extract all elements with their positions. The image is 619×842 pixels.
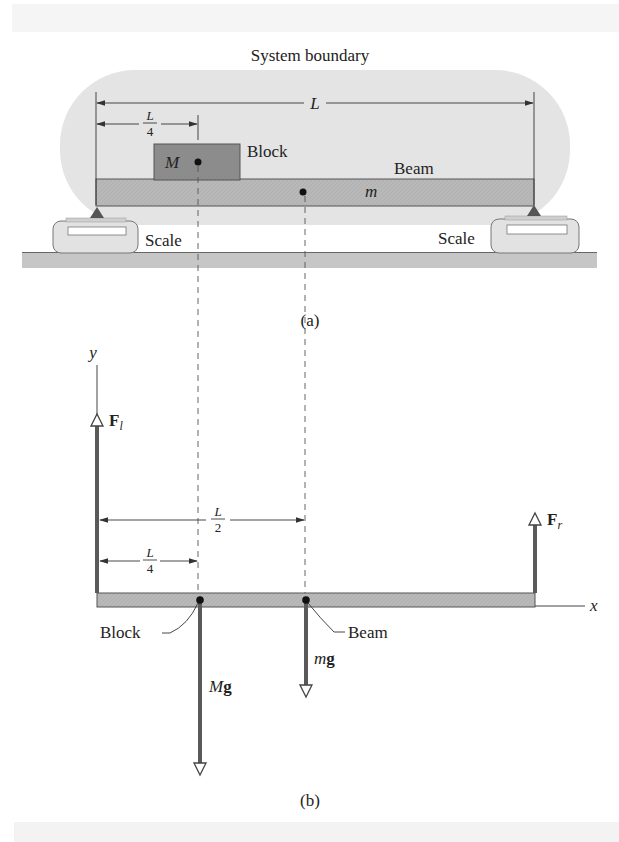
svg-text:L: L xyxy=(145,108,153,123)
dim-half-fraction: L 2 xyxy=(211,504,225,535)
dim-L-label: L xyxy=(309,94,319,113)
ground xyxy=(22,253,597,268)
block-mass-symbol: M xyxy=(164,153,180,172)
beam-weight-arrowhead-icon xyxy=(300,685,312,697)
left-scale-label: Scale xyxy=(145,231,182,250)
block-center-of-mass xyxy=(195,159,202,166)
block-label: Block xyxy=(247,142,288,161)
caption-b: (b) xyxy=(300,791,320,810)
beam-label: Beam xyxy=(394,159,434,178)
caption-a: (a) xyxy=(301,311,320,330)
beam-mass-symbol: m xyxy=(365,182,377,201)
dim-quarter-fraction-b: L 4 xyxy=(143,545,157,576)
force-left-label: Fl xyxy=(109,411,123,433)
x-axis-label: x xyxy=(589,596,598,615)
diagram-canvas: System boundary Scale Scale m Beam M xyxy=(0,0,619,842)
block-weight-label: Mg xyxy=(208,677,232,696)
force-left-arrowhead-icon xyxy=(91,414,103,426)
block-point-label: Block xyxy=(100,623,141,642)
beam-weight-label: mg xyxy=(314,649,335,668)
block-application-point xyxy=(196,596,204,604)
beam-fbd xyxy=(97,593,535,607)
force-right-label: Fr xyxy=(547,510,562,532)
svg-text:L: L xyxy=(145,545,153,560)
force-right-arrowhead-icon xyxy=(529,513,541,525)
beam-application-point xyxy=(302,596,310,604)
bottom-band xyxy=(14,822,619,842)
system-boundary-label: System boundary xyxy=(251,46,370,65)
svg-text:4: 4 xyxy=(147,561,154,576)
part-b: y x Fl Fr Mg mg xyxy=(87,343,598,810)
block-weight-arrowhead-icon xyxy=(194,763,206,775)
beam-point-label: Beam xyxy=(348,623,388,642)
beam-center-of-mass xyxy=(300,189,307,196)
svg-text:2: 2 xyxy=(215,520,222,535)
right-scale-label: Scale xyxy=(438,229,475,248)
svg-text:4: 4 xyxy=(147,124,154,139)
y-axis-label: y xyxy=(87,343,97,362)
beam xyxy=(96,179,534,206)
svg-text:L: L xyxy=(213,504,221,519)
top-band xyxy=(12,4,619,32)
part-a: System boundary Scale Scale m Beam M xyxy=(22,46,597,330)
